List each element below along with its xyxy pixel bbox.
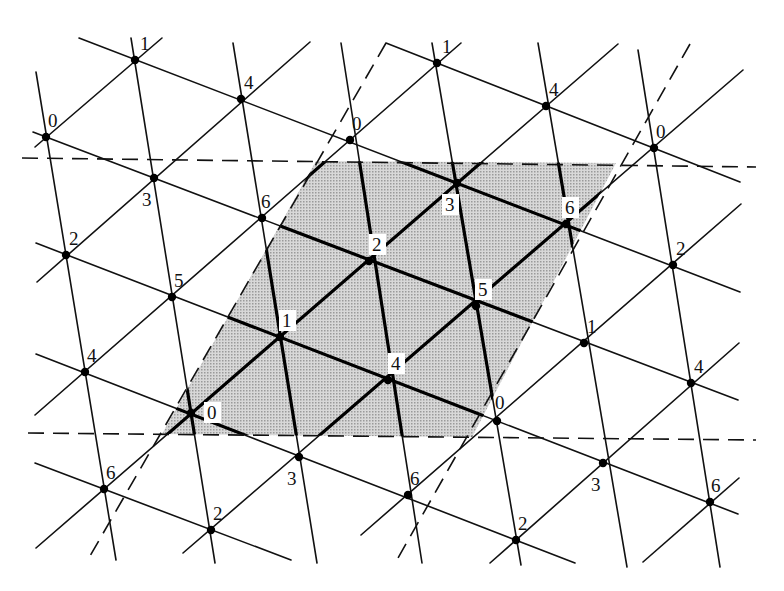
node-label: 0 <box>352 113 362 134</box>
node-dot <box>168 293 176 301</box>
node-label: 0 <box>207 402 217 423</box>
node-dot <box>472 302 480 310</box>
node-dot <box>599 459 607 467</box>
lattice-node: 0 <box>346 113 362 144</box>
lattice-node: 6 <box>404 468 420 499</box>
node-label: 1 <box>282 310 292 331</box>
node-dot <box>404 491 412 499</box>
node-label: 6 <box>106 462 116 483</box>
node-dot <box>187 409 195 417</box>
node-label: 4 <box>87 345 97 366</box>
node-label: 1 <box>587 316 597 337</box>
node-label: 1 <box>442 36 452 57</box>
node-dot <box>433 59 441 67</box>
node-label: 2 <box>676 238 686 259</box>
node-dot <box>562 220 570 228</box>
node-label: 2 <box>69 228 79 249</box>
node-dot <box>42 133 50 141</box>
node-dot <box>100 485 108 493</box>
node-dot <box>237 95 245 103</box>
lattice-node: 0 <box>493 392 505 425</box>
lattice-node: 2 <box>669 238 686 269</box>
node-dot <box>650 144 658 152</box>
node-label: 2 <box>518 513 528 534</box>
node-dot <box>384 376 392 384</box>
node-dot <box>542 102 550 110</box>
shaded-fundamental-region <box>162 161 616 437</box>
lattice-line <box>638 50 720 567</box>
node-label: 4 <box>244 72 254 93</box>
node-label: 5 <box>478 279 488 300</box>
lattice-line <box>643 478 739 562</box>
node-label: 3 <box>142 189 152 210</box>
node-label: 5 <box>174 270 184 291</box>
node-dot <box>365 257 373 265</box>
node-label: 4 <box>391 353 401 374</box>
node-label: 0 <box>48 110 58 131</box>
node-dot <box>81 368 89 376</box>
node-dot <box>706 498 714 506</box>
lattice-node: 1 <box>433 36 452 67</box>
node-dot <box>669 261 677 269</box>
node-label: 6 <box>565 197 575 218</box>
node-dot <box>580 339 588 347</box>
node-dot <box>62 251 70 259</box>
node-label: 1 <box>140 33 150 54</box>
node-label: 0 <box>495 392 505 413</box>
node-label: 0 <box>656 121 666 142</box>
node-label: 3 <box>591 474 601 495</box>
node-dot <box>687 379 695 387</box>
node-dot <box>207 526 215 534</box>
lattice-diagram: 141400033662225511444003366622 <box>0 0 784 591</box>
lattice-line <box>538 43 627 567</box>
node-label: 2 <box>372 234 382 255</box>
lattice-node: 1 <box>580 316 597 347</box>
node-dot <box>346 136 354 144</box>
lattice-node: 1 <box>131 33 150 64</box>
node-dot <box>512 536 520 544</box>
node-dot <box>453 179 461 187</box>
node-label: 6 <box>711 475 721 496</box>
node-dot <box>493 417 501 425</box>
node-label: 4 <box>549 79 559 100</box>
node-label: 6 <box>261 191 271 212</box>
lattice-node: 3 <box>287 453 303 489</box>
node-label: 3 <box>287 468 297 489</box>
node-dot <box>150 174 158 182</box>
node-dot <box>276 333 284 341</box>
node-label: 6 <box>410 468 420 489</box>
node-dot <box>295 453 303 461</box>
node-label: 3 <box>445 194 455 215</box>
node-label: 2 <box>213 503 223 524</box>
node-dot <box>258 214 266 222</box>
lattice-node: 2 <box>207 503 223 534</box>
lattice-line <box>35 463 291 560</box>
lattice-node: 3 <box>591 459 607 495</box>
node-dot <box>131 56 139 64</box>
node-label: 4 <box>694 356 704 377</box>
